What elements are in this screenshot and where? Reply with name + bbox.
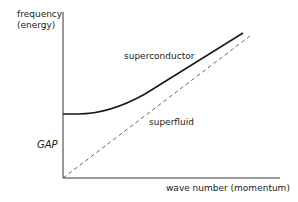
y-axis-label: frequency (energy)	[17, 9, 62, 31]
superconductor-label: superconductor	[124, 51, 194, 62]
superfluid-label: superfluid	[149, 117, 194, 128]
y-axis-label-line1: frequency	[17, 9, 62, 20]
x-axis-label: wave number (momentum)	[166, 183, 290, 194]
y-axis-label-line2: (energy)	[17, 20, 62, 31]
gap-label: GAP	[37, 139, 58, 150]
superconductor-curve	[63, 33, 243, 114]
